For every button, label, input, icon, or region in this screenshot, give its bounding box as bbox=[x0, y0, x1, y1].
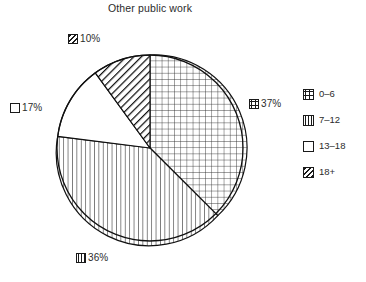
empty-swatch-icon bbox=[303, 141, 314, 152]
crosshatch-grid-swatch-icon bbox=[303, 89, 314, 100]
chart-legend: 0–6 7–12 13–18 18+ bbox=[303, 88, 365, 178]
pie-callout-13-18-value: 17% bbox=[22, 103, 42, 113]
pie-chart-figure: Other public work bbox=[0, 0, 366, 282]
chart-title: Other public work bbox=[0, 2, 300, 14]
diagonal-hatch-swatch-icon bbox=[68, 34, 78, 44]
legend-item-0-6: 0–6 bbox=[303, 88, 365, 100]
pie-callout-18plus-value: 10% bbox=[80, 34, 100, 44]
pie-callout-7-12-value: 36% bbox=[88, 253, 108, 263]
legend-item-0-6-label: 0–6 bbox=[319, 89, 335, 99]
pie-callout-18plus: 10% bbox=[68, 34, 100, 44]
legend-item-13-18: 13–18 bbox=[303, 140, 365, 152]
pie-callout-13-18: 17% bbox=[10, 103, 42, 113]
legend-item-18plus: 18+ bbox=[303, 166, 365, 178]
pie-callout-0-6: 37% bbox=[249, 99, 281, 109]
legend-item-18plus-label: 18+ bbox=[319, 167, 335, 177]
legend-item-7-12: 7–12 bbox=[303, 114, 365, 126]
pie-callout-0-6-value: 37% bbox=[261, 99, 281, 109]
empty-swatch-icon bbox=[10, 103, 20, 113]
pie-callout-7-12: 36% bbox=[76, 253, 108, 263]
pie-chart-graphic bbox=[50, 48, 250, 248]
crosshatch-grid-swatch-icon bbox=[249, 99, 259, 109]
vertical-lines-swatch-icon bbox=[76, 253, 86, 263]
legend-item-13-18-label: 13–18 bbox=[319, 141, 345, 151]
legend-item-7-12-label: 7–12 bbox=[319, 115, 340, 125]
vertical-lines-swatch-icon bbox=[303, 115, 314, 126]
diagonal-hatch-swatch-icon bbox=[303, 167, 314, 178]
